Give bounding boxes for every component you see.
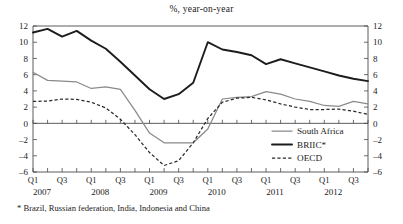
y-tick-label-right: 4 [373, 86, 378, 96]
chart-legend: South AfricaBRIIC*OECD [272, 126, 344, 163]
chart-plot-area: 121086420–2–4–6 121086420–2–4–6 Q1Q3Q1Q3… [0, 0, 403, 200]
y-tick-label-left: 8 [24, 54, 29, 64]
y-tick-label-right: 12 [373, 21, 382, 31]
y-tick-label-left: 6 [24, 70, 29, 80]
y-tick-label-left: 0 [24, 119, 29, 129]
series-line-briic [33, 29, 368, 99]
y-tick-label-left: 10 [19, 37, 29, 47]
x-tick-label: Q1 [144, 175, 155, 185]
legend-label: South Africa [297, 126, 344, 136]
x-tick-label: Q3 [290, 175, 301, 185]
y-tick-label-left: 12 [19, 21, 28, 31]
y-axis-right-ticks: 121086420–2–4–6 [364, 21, 383, 177]
y-tick-label-left: 2 [24, 102, 29, 112]
y-tick-label-right: 10 [373, 37, 383, 47]
legend-label: BRIIC* [297, 140, 327, 150]
y-tick-label-left: 4 [24, 86, 29, 96]
x-tick-label: Q1 [261, 175, 272, 185]
x-tick-label: Q1 [319, 175, 330, 185]
x-year-label: 2008 [91, 187, 110, 197]
x-tick-label: Q3 [348, 175, 359, 185]
y-tick-label-right: 8 [373, 54, 378, 64]
y-tick-label-right: –6 [372, 167, 383, 177]
x-year-label: 2010 [208, 187, 227, 197]
x-year-label: 2007 [33, 187, 52, 197]
x-tick-label: Q3 [232, 175, 243, 185]
y-tick-label-right: 6 [373, 70, 378, 80]
y-tick-label-right: 0 [373, 119, 378, 129]
y-tick-label-right: 2 [373, 102, 378, 112]
x-tick-label: Q1 [86, 175, 97, 185]
chart-figure: %, year-on-year 121086420–2–4–6 12108642… [0, 0, 403, 224]
x-tick-label: Q3 [57, 175, 68, 185]
x-tick-label: Q3 [173, 175, 184, 185]
x-year-label: 2009 [150, 187, 169, 197]
y-axis-left-ticks: 121086420–2–4–6 [18, 21, 37, 177]
x-tick-label: Q3 [115, 175, 126, 185]
y-tick-label-left: –4 [18, 151, 29, 161]
plot-frame [33, 26, 368, 172]
chart-footnote: * Brazil, Russian federation, India, Ind… [17, 203, 210, 213]
chart-axes [33, 26, 368, 172]
y-tick-label-right: –2 [372, 135, 382, 145]
y-tick-label-right: –4 [372, 151, 383, 161]
legend-label: OECD [297, 153, 322, 163]
x-year-label: 2011 [266, 187, 284, 197]
x-tick-label: Q1 [28, 175, 39, 185]
chart-title: %, year-on-year [0, 4, 403, 14]
x-year-label: 2012 [324, 187, 342, 197]
x-tick-label: Q1 [203, 175, 214, 185]
y-tick-label-left: –2 [18, 135, 28, 145]
